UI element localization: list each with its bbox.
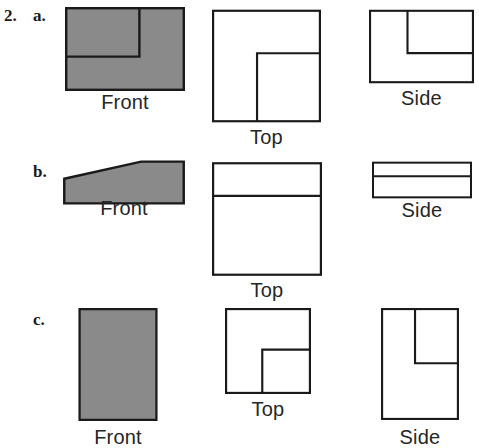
row-c-front-body xyxy=(80,309,157,420)
row-c-side-view xyxy=(381,308,459,420)
item-marker-b: b. xyxy=(33,163,47,180)
row-c-top-body xyxy=(226,309,310,393)
problem-number: 2. xyxy=(4,7,17,24)
item-marker-c: c. xyxy=(33,311,45,328)
row-a-top-label: Top xyxy=(212,127,321,147)
row-a-side-view xyxy=(369,9,474,84)
row-c-top-label: Top xyxy=(225,399,311,419)
item-marker-a: a. xyxy=(33,7,46,24)
exercise-figure: 2. a. Front Top Side b. Front xyxy=(0,0,479,448)
row-a-top-view xyxy=(212,9,321,123)
row-b-side-label: Side xyxy=(372,200,472,220)
row-c-front-view xyxy=(78,308,158,421)
row-b-top-body xyxy=(213,163,321,274)
row-c-front-label: Front xyxy=(68,427,168,447)
row-b-front-label: Front xyxy=(62,198,186,218)
row-c-top-view xyxy=(225,308,311,394)
row-a-front-view xyxy=(63,7,187,91)
row-a-top-body xyxy=(213,11,320,121)
row-a-side-body xyxy=(370,11,473,82)
row-b-side-body xyxy=(373,163,471,198)
row-b-top-view xyxy=(212,161,322,277)
row-a-side-label: Side xyxy=(369,88,474,108)
row-c-side-label: Side xyxy=(381,427,459,447)
row-b-top-label: Top xyxy=(212,280,322,300)
row-a-front-label: Front xyxy=(63,92,187,112)
row-b-side-view xyxy=(372,161,472,199)
row-a-front-body xyxy=(66,8,184,90)
